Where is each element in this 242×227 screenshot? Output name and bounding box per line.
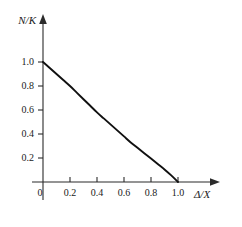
- data-curve-line: [43, 62, 178, 182]
- y-axis-arrow-icon: [39, 14, 47, 24]
- y-tick-label: 0.4: [22, 128, 35, 139]
- x-tick-label: 0.8: [145, 187, 158, 198]
- x-tick-label: 0.2: [64, 187, 77, 198]
- y-tick-label: 1.0: [22, 56, 35, 67]
- chart-figure: 1.0 0.8 0.6 0.4 0.2 0 0.2 0.4 0.6 0.8 1.…: [0, 0, 242, 227]
- x-tick-label-origin: 0: [38, 187, 43, 198]
- x-axis: [32, 178, 220, 186]
- x-axis-ticks: [70, 177, 178, 182]
- y-tick-labels: 1.0 0.8 0.6 0.4 0.2: [22, 56, 35, 163]
- x-tick-label: 1.0: [172, 187, 185, 198]
- y-tick-label: 0.2: [22, 152, 35, 163]
- y-tick-label: 0.8: [22, 80, 35, 91]
- x-tick-label: 0.6: [118, 187, 131, 198]
- x-axis-title: Δ/X: [193, 188, 212, 200]
- y-axis: [39, 14, 47, 200]
- x-tick-label: 0.4: [91, 187, 104, 198]
- chart-plot-area: 1.0 0.8 0.6 0.4 0.2 0 0.2 0.4 0.6 0.8 1.…: [0, 0, 242, 227]
- x-axis-arrow-icon: [210, 178, 220, 186]
- y-tick-label: 0.6: [22, 104, 35, 115]
- y-axis-ticks: [38, 62, 43, 158]
- y-axis-title: N/K: [17, 14, 36, 26]
- x-tick-labels: 0 0.2 0.4 0.6 0.8 1.0: [38, 187, 185, 198]
